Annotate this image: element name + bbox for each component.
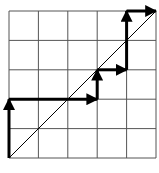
lattice-path-diagram — [0, 0, 159, 173]
diagonal-line — [9, 11, 156, 158]
